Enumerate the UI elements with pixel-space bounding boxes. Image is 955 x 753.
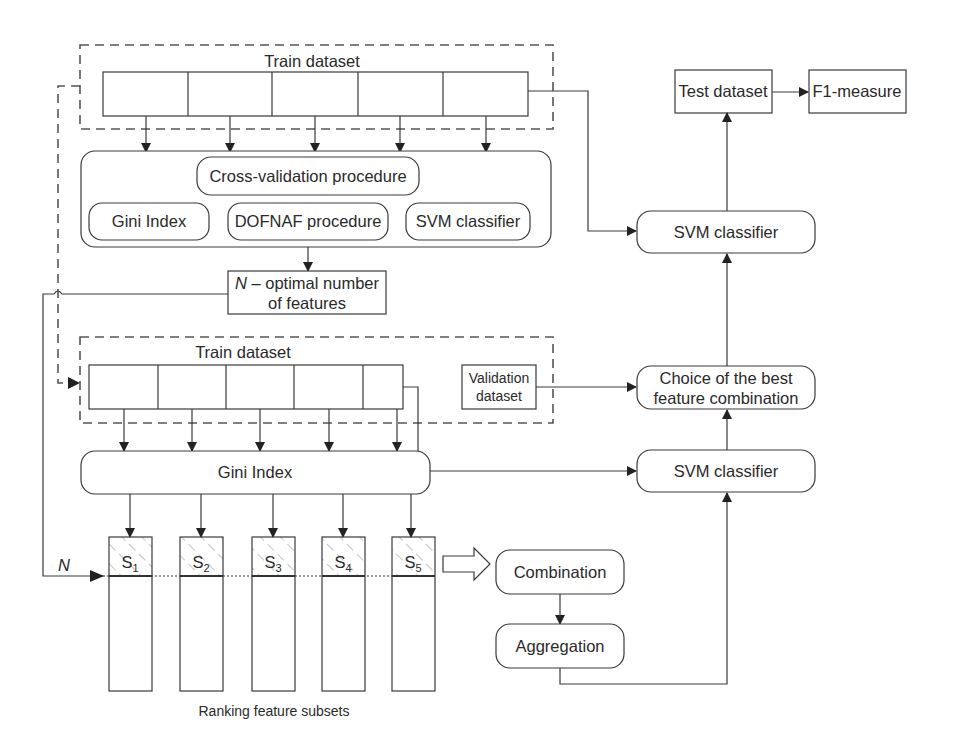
f1-measure-label: F1-measure — [813, 82, 902, 100]
top-train-dataset-label: Train dataset — [264, 52, 360, 70]
optimal-n-line2: of features — [268, 294, 346, 312]
gini-index-node: Gini Index — [81, 451, 430, 494]
subset-s2: S2 — [180, 537, 223, 691]
best-combination-node: Choice of the best feature combination — [637, 366, 815, 409]
validation-line2: dataset — [476, 388, 522, 404]
top-train-dataset-group: Train dataset — [80, 45, 553, 129]
bottom-train-dataset-label: Train dataset — [195, 343, 291, 361]
subset-s3: S3 — [252, 537, 295, 691]
cv-gini-index-label: Gini Index — [112, 212, 187, 230]
n-feedback-line — [43, 291, 228, 576]
svm-top-label: SVM classifier — [674, 223, 779, 241]
combination-label: Combination — [514, 563, 607, 581]
aggregation-label: Aggregation — [516, 637, 605, 655]
aggregation-node: Aggregation — [496, 624, 624, 668]
cv-svm-label: SVM classifier — [416, 212, 521, 230]
best-choice-line1: Choice of the best — [660, 369, 793, 387]
test-dataset-label: Test dataset — [679, 82, 768, 100]
subset-s4: S4 — [322, 537, 365, 691]
feature-selection-diagram: Train dataset Cross-validation procedure… — [0, 0, 955, 753]
svm-top-node: SVM classifier — [637, 211, 815, 253]
f1-measure-node: F1-measure — [809, 70, 906, 113]
bottom-train-dataset-group: Train dataset Validation dataset — [80, 337, 553, 423]
subset-s1: S1 — [109, 537, 152, 691]
ranking-subsets: S1 S2 S3 S4 S5 — [103, 537, 435, 691]
bottom-fold-arrows — [124, 409, 397, 451]
cv-dofnaf-label: DOFNAF procedure — [235, 212, 382, 230]
optimal-n-line1: – optimal number — [247, 274, 380, 292]
gini-index-label: Gini Index — [218, 463, 293, 481]
validation-line1: Validation — [469, 370, 529, 386]
combination-node: Combination — [496, 550, 624, 594]
dashed-dataset-link — [58, 86, 80, 383]
n-marker-label: N — [58, 556, 70, 574]
bottom-train-folds — [89, 365, 403, 409]
cross-validation-container: Cross-validation procedure Gini Index DO… — [81, 151, 551, 247]
svm-bottom-node: SVM classifier — [637, 450, 815, 492]
cv-procedure-label: Cross-validation procedure — [209, 167, 406, 185]
ranking-caption: Ranking feature subsets — [199, 703, 350, 719]
optimal-n-node: N – optimal number of features — [228, 271, 386, 314]
best-choice-line2: feature combination — [654, 389, 799, 407]
gini-to-subset-arrows — [130, 494, 411, 537]
subset-s5: S5 — [392, 537, 435, 691]
svg-text:N – optimal number: N – optimal number — [235, 274, 379, 292]
n-symbol: N — [235, 274, 247, 292]
block-arrow-icon — [443, 548, 490, 580]
test-dataset-node: Test dataset — [675, 70, 772, 113]
svm-bottom-label: SVM classifier — [674, 462, 779, 480]
top-fold-arrows — [146, 116, 486, 152]
top-train-folds — [103, 72, 528, 116]
